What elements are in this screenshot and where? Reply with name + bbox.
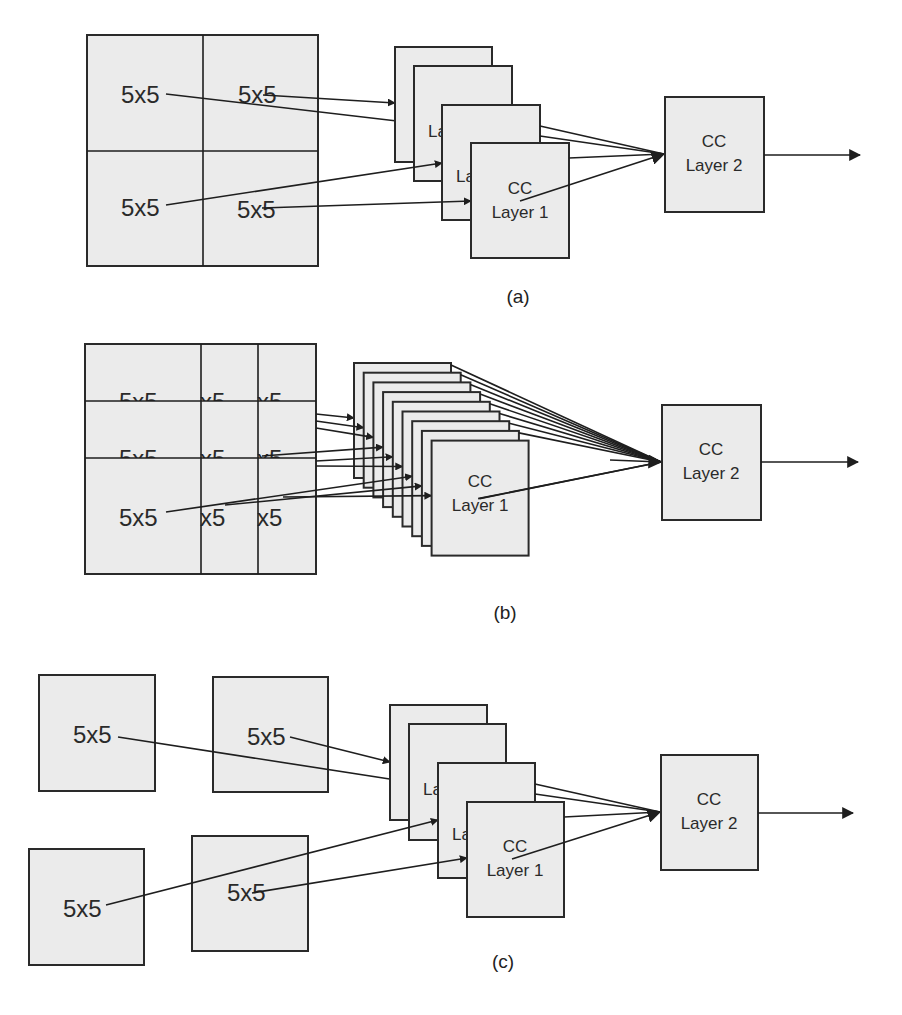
tile-label: 5x5 [247, 723, 286, 750]
layer2-label-line1: CC [697, 790, 722, 809]
tile-label: 5x5 [121, 194, 160, 221]
layer2-label-line1: CC [702, 132, 727, 151]
tile-label: x5 [200, 504, 225, 531]
tile-label: 5x5 [63, 895, 102, 922]
layer2-box-b: CC Layer 2 [662, 405, 761, 520]
connection-line [569, 154, 664, 158]
layer1-label-line2: Layer 1 [492, 203, 549, 222]
layer1-label-line1: CC [503, 837, 528, 856]
caption-a: (a) [506, 286, 529, 307]
layer1-box-front-c: CC Layer 1 [467, 802, 564, 917]
layer2-box-a: CC Layer 2 [665, 97, 764, 212]
layer2-label-line2: Layer 2 [683, 464, 740, 483]
layer2-label-line1: CC [699, 440, 724, 459]
layer2-label-line2: Layer 2 [681, 814, 738, 833]
tile-label: 5x5 [119, 504, 158, 531]
panel-c: 5x5 5x5 5x5 5x5 La La CC Layer 1 CC L [29, 675, 853, 972]
panel-a: 5x5 5x5 5x5 5x5 La La CC Layer 1 [87, 35, 860, 307]
diagram-canvas: 5x5 5x5 5x5 5x5 La La CC Layer 1 [0, 0, 902, 1015]
tile-label: 5x5 [237, 196, 276, 223]
layer1-label-line1: CC [468, 472, 493, 491]
input-grid-a: 5x5 5x5 5x5 5x5 [87, 35, 318, 266]
tile-label: 5x5 [121, 81, 160, 108]
connection-arrow [316, 466, 403, 467]
panel-b: 5x5 x5 x5 5x5 x5 x5 5x5 x5 x5 CCLayer 1 … [85, 344, 858, 623]
tile-label: x5 [257, 504, 282, 531]
layer2-box [661, 755, 758, 870]
input-tiles-c: 5x5 5x5 5x5 5x5 [29, 675, 328, 965]
layer2-box [662, 405, 761, 520]
caption-b: (b) [493, 602, 516, 623]
layer2-box [665, 97, 764, 212]
layer2-label-line2: Layer 2 [686, 156, 743, 175]
layer1-label-line1: CC [508, 179, 533, 198]
layer1-box [467, 802, 564, 917]
tile-label: 5x5 [73, 721, 112, 748]
layer1-label-line2: Layer 1 [487, 861, 544, 880]
connection-arrow [316, 414, 354, 418]
caption-c: (c) [492, 951, 514, 972]
layer2-box-c: CC Layer 2 [661, 755, 758, 870]
input-grid-b: 5x5 x5 x5 5x5 x5 x5 5x5 x5 x5 [85, 344, 316, 574]
